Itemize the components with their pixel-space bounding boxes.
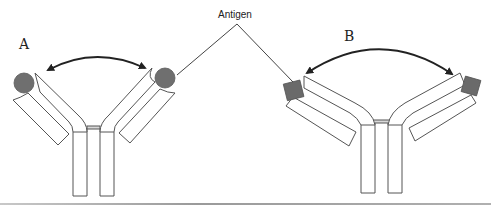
antigen-pointer <box>177 24 293 82</box>
antibody-b-hinge <box>373 120 390 123</box>
antigen-ball-a-left <box>14 73 34 93</box>
antibody-a-heavy-stem-left <box>73 128 87 196</box>
antibody-a-flex-arrow <box>48 57 145 70</box>
antibody-a <box>13 57 175 196</box>
antibody-b-flex-arrow <box>307 49 452 74</box>
antigen-square-b-left <box>283 80 304 101</box>
antibody-b-heavy-stem-left <box>361 122 375 193</box>
antibody-flexibility-diagram <box>0 0 491 208</box>
antibody-b <box>283 49 481 193</box>
antibody-a-heavy-stem-right <box>100 128 114 196</box>
antibody-b-heavy-stem-right <box>388 122 402 193</box>
antibody-a-hinge <box>87 126 100 129</box>
antigen-square-b-right <box>461 76 481 96</box>
antigen-ball-a-right <box>155 68 175 88</box>
antigen-label: Antigen <box>218 10 252 20</box>
panel-a-label: A <box>19 37 29 51</box>
bottom-divider <box>0 203 491 205</box>
panel-b-label: B <box>344 29 354 43</box>
